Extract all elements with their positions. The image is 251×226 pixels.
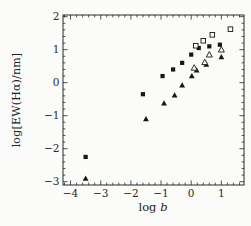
y-tick-label: −2 bbox=[44, 142, 59, 154]
y-tick-label: 2 bbox=[53, 10, 60, 22]
data-point-filled-triangles bbox=[143, 116, 149, 121]
data-point-filled-triangles bbox=[172, 92, 178, 97]
data-point-filled-squares bbox=[171, 67, 175, 71]
data-point-filled-triangles bbox=[83, 175, 89, 180]
data-point-filled-squares bbox=[141, 92, 145, 96]
data-point-filled-triangles bbox=[189, 73, 195, 78]
data-point-open-squares bbox=[228, 27, 233, 32]
data-point-filled-squares bbox=[84, 155, 88, 159]
data-point-open-triangles bbox=[206, 52, 212, 58]
data-point-open-triangles bbox=[218, 47, 224, 53]
y-tick-label: −3 bbox=[44, 175, 59, 187]
data-point-filled-squares bbox=[189, 53, 193, 57]
y-tick-label: −1 bbox=[44, 109, 59, 121]
plot-area: −4−3−2−101−3−2−1012 bbox=[0, 0, 251, 226]
y-axis-label: log[EW(Hα)/nm] bbox=[10, 53, 23, 148]
axis-frame bbox=[63, 15, 244, 185]
x-axis-label-prefix: log bbox=[139, 200, 157, 214]
y-tick-label: 0 bbox=[53, 76, 60, 88]
x-tick-label: 1 bbox=[218, 187, 225, 199]
data-point-open-squares bbox=[201, 38, 206, 43]
x-tick-label: −3 bbox=[93, 187, 108, 199]
data-point-open-squares bbox=[210, 33, 215, 38]
data-point-filled-squares bbox=[180, 61, 184, 65]
scatter-plot-figure: −4−3−2−101−3−2−1012 log[EW(Hα)/nm] log b bbox=[0, 0, 251, 226]
x-tick-label: −1 bbox=[153, 187, 168, 199]
data-point-open-squares bbox=[193, 43, 198, 48]
data-point-filled-triangles bbox=[218, 54, 224, 59]
data-point-filled-triangles bbox=[161, 100, 167, 105]
x-axis-label-variable: b bbox=[160, 200, 167, 214]
x-tick-label: −2 bbox=[123, 187, 138, 199]
data-point-open-triangles bbox=[202, 59, 208, 65]
x-tick-label: −4 bbox=[63, 187, 79, 199]
y-tick-label: 1 bbox=[53, 43, 60, 55]
data-point-filled-triangles bbox=[179, 82, 185, 87]
x-axis-label: log b bbox=[139, 200, 168, 214]
data-point-filled-squares bbox=[160, 74, 164, 78]
data-point-filled-squares bbox=[207, 44, 211, 48]
x-tick-label: 0 bbox=[188, 187, 195, 199]
data-point-open-triangles bbox=[191, 65, 197, 71]
